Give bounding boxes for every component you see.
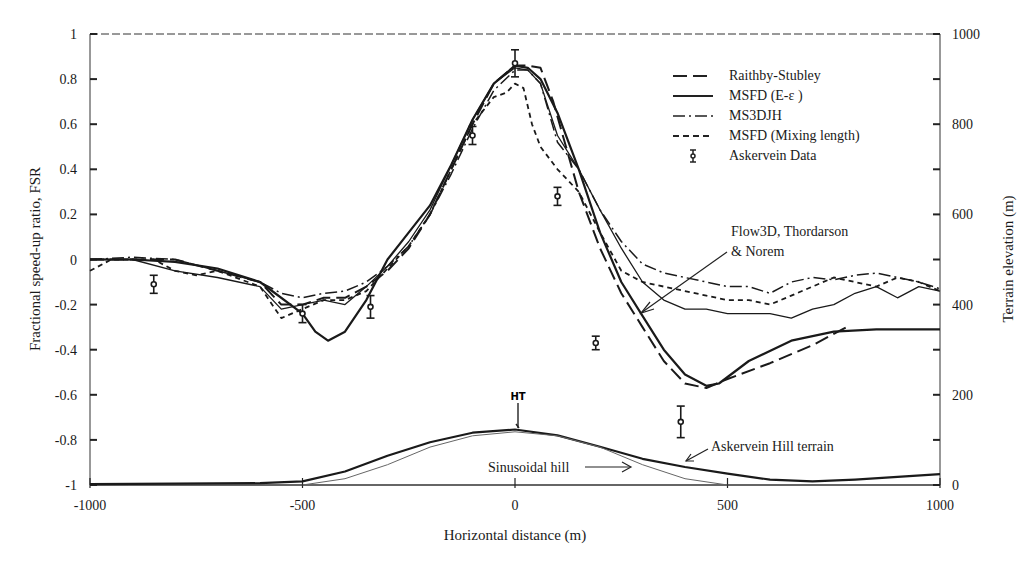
right-tick-label: 600	[952, 207, 973, 222]
x-tick-label: -500	[290, 498, 316, 513]
x-tick-label: 1000	[926, 498, 954, 513]
plot-frame	[90, 34, 940, 485]
left-tick-label: 0.6	[60, 117, 78, 132]
left-tick-label: 0	[70, 253, 77, 268]
askervein-data-point	[150, 275, 158, 293]
left-tick-label: 0.4	[60, 162, 78, 177]
right-tick-label: 0	[952, 478, 959, 493]
series-askervein-hill-terrain	[90, 430, 940, 485]
series-msfd-mixing-length	[90, 84, 940, 319]
right-axis-ticks	[933, 34, 940, 485]
legend-label-msfd-mixing: MSFD (Mixing length)	[729, 128, 860, 144]
left-tick-label: -0.4	[55, 343, 77, 358]
annotation-ht: HT	[510, 391, 525, 428]
left-tick-label: -0.8	[55, 433, 77, 448]
x-axis-tick-labels: -1000-50005001000	[74, 498, 954, 513]
left-tick-label: 0.2	[60, 207, 78, 222]
x-tick-label: -1000	[74, 498, 107, 513]
x-tick-label: 0	[512, 498, 519, 513]
fsr-chart: 10.80.60.40.20-0.2-0.4-0.6-0.8-1 1000800…	[0, 0, 1030, 566]
left-tick-label: 0.8	[60, 72, 78, 87]
series-ms3djh	[90, 70, 940, 298]
legend-label-ms3djh: MS3DJH	[729, 108, 782, 123]
left-tick-label: -0.2	[55, 298, 77, 313]
legend-swatch-askervein-data	[690, 150, 696, 162]
left-axis-tick-labels: 10.80.60.40.20-0.2-0.4-0.6-0.8-1	[55, 27, 77, 493]
series-msfd-e	[90, 68, 940, 318]
y-axis-title: Fractional speed-up ratio, FSR	[27, 167, 43, 351]
askervein-data-point	[511, 50, 519, 77]
right-tick-label: 800	[952, 117, 973, 132]
y2-axis-title: Terrain elevation (m)	[1000, 195, 1017, 322]
legend: Raithby-Stubley MSFD (E-ε ) MS3DJH MSFD …	[673, 68, 860, 163]
annotation-flow3d-line1: Flow3D, Thordarson	[731, 224, 848, 239]
askervein-data-point	[592, 336, 600, 350]
right-tick-label: 200	[952, 388, 973, 403]
x-tick-label: 500	[717, 498, 738, 513]
annotation-askervein-terrain: Askervein Hill terrain	[686, 439, 834, 461]
left-tick-label: 1	[70, 27, 77, 42]
annotation-askervein-terrain-label: Askervein Hill terrain	[711, 439, 834, 454]
askervein-data-point	[677, 406, 685, 438]
left-tick-label: -0.6	[55, 388, 77, 403]
x-axis-title: Horizontal distance (m)	[444, 527, 586, 544]
annotation-flow3d: Flow3D, Thordarson & Norem	[641, 224, 848, 313]
legend-label-askervein-data: Askervein Data	[729, 148, 817, 163]
right-axis-tick-labels: 10008006004002000	[952, 27, 980, 493]
askervein-data-point	[554, 187, 562, 205]
left-tick-label: -1	[65, 478, 77, 493]
right-tick-label: 400	[952, 298, 973, 313]
annotation-sinusoidal-hill: Sinusoidal hill	[488, 460, 631, 475]
legend-label-raithby-stubley: Raithby-Stubley	[729, 68, 821, 83]
annotation-flow3d-line2: & Norem	[731, 244, 784, 259]
legend-label-msfd-e-eps: MSFD (E-ε )	[729, 88, 803, 104]
series-sinusoidal-hill	[303, 432, 728, 485]
right-tick-label: 1000	[952, 27, 980, 42]
annotation-sinusoidal-hill-label: Sinusoidal hill	[488, 460, 569, 475]
annotation-ht-label: HT	[510, 391, 525, 402]
